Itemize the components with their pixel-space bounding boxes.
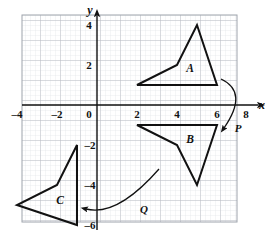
figure-a-label: A xyxy=(185,62,194,74)
x-tick-label: –2 xyxy=(51,108,64,120)
y-axis-label: y xyxy=(85,3,93,17)
y-tick-label: 4 xyxy=(86,19,92,31)
x-tick-label: 0 xyxy=(86,108,92,120)
arrow-q-label: Q xyxy=(140,203,148,215)
y-tick-label: –4 xyxy=(84,179,97,191)
x-tick-label: 4 xyxy=(174,108,180,120)
arrow-p-label: P xyxy=(235,122,242,134)
figure-c-label: C xyxy=(56,194,64,206)
coordinate-plane-figure: x y –4 –2 0 2 4 6 8 4 2 –2 –4 –6 A B C xyxy=(0,0,276,240)
x-tick-label: 2 xyxy=(134,108,140,120)
figure-b-label: B xyxy=(185,133,194,145)
graph-svg: x y –4 –2 0 2 4 6 8 4 2 –2 –4 –6 A B C xyxy=(0,0,276,240)
y-tick-label: –2 xyxy=(84,139,97,151)
y-tick-label: 2 xyxy=(86,59,92,71)
x-tick-label: 6 xyxy=(214,108,220,120)
y-tick-label: –6 xyxy=(84,219,97,231)
x-axis-label: x xyxy=(258,98,265,112)
x-tick-label: 8 xyxy=(243,108,249,120)
x-tick-label: –4 xyxy=(11,108,24,120)
